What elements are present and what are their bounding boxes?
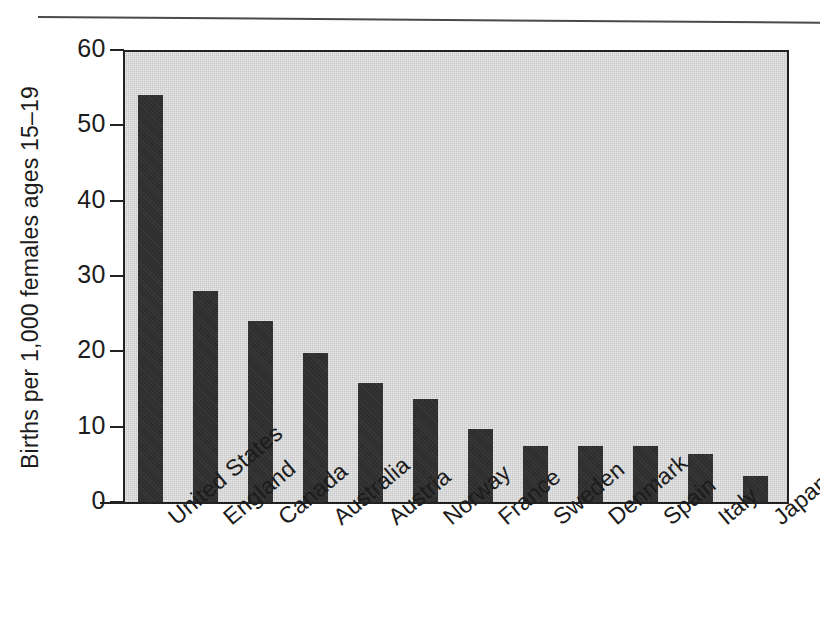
x-axis-tick-label: Australia: [328, 510, 345, 531]
x-axis-tick-label: France: [493, 510, 510, 531]
chart-figure: 0102030405060 Births per 1,000 females a…: [0, 0, 820, 629]
x-axis-tick-label: Canada: [273, 510, 290, 531]
x-axis-tick-label: Austria: [383, 510, 400, 531]
x-axis-tick-label: United States: [163, 510, 180, 531]
x-axis-tick-label: Norway: [438, 510, 455, 531]
x-axis-tick-label: Denmark: [603, 510, 620, 531]
x-axis-tick-labels: United StatesEnglandCanadaAustraliaAustr…: [0, 0, 820, 629]
x-axis-tick-label: Spain: [658, 510, 675, 531]
x-axis-tick-label: Sweden: [548, 510, 565, 531]
x-axis-tick-label: Italy: [713, 510, 730, 531]
x-axis-tick-label: Japan: [768, 510, 785, 531]
x-axis-tick-label: England: [218, 510, 235, 531]
